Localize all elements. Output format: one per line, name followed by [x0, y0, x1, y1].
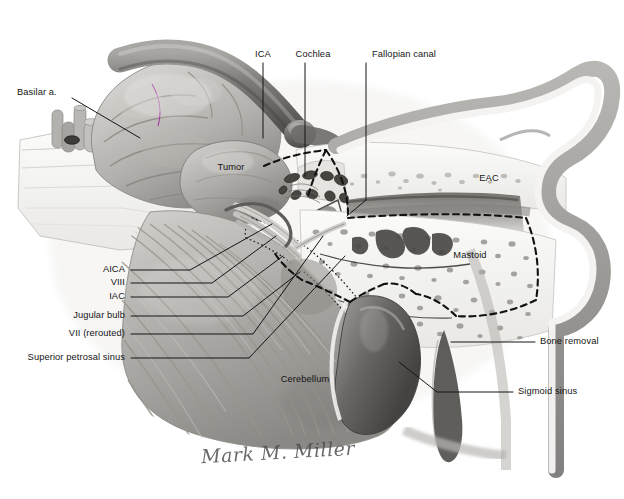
- label-eac: EAC: [479, 174, 498, 183]
- label-mastoid: Mastoid: [453, 251, 486, 260]
- label-tumor: Tumor: [217, 163, 244, 172]
- label-ica: ICA: [255, 50, 271, 59]
- anatomical-figure: Basilar a.ICACochleaFallopian canalTumor…: [0, 0, 624, 499]
- label-superior-petrosal-sinus: Superior petrosal sinus: [28, 353, 125, 362]
- label-iac: IAC: [109, 292, 125, 301]
- label-cerebellum: Cerebellum: [281, 375, 330, 384]
- label-bone-removal: Bone removal: [540, 337, 599, 346]
- label-sigmoid-sinus: Sigmoid sinus: [518, 387, 577, 396]
- label-vii-rerouted: VII (rerouted): [69, 329, 125, 338]
- label-viii: VIII: [111, 278, 125, 287]
- label-fallopian-canal: Fallopian canal: [372, 50, 436, 59]
- label-basilar-artery: Basilar a.: [17, 88, 57, 97]
- illustration-canvas: [0, 0, 624, 499]
- label-cochlea: Cochlea: [296, 50, 331, 59]
- label-aica: AICA: [103, 265, 125, 274]
- label-jugular-bulb: Jugular bulb: [73, 311, 125, 320]
